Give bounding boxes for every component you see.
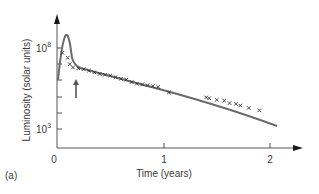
observation-x-marker xyxy=(215,98,219,102)
x-tick-0: 0 xyxy=(51,154,57,165)
y-axis xyxy=(54,14,62,148)
observation-x-marker xyxy=(68,62,72,66)
observation-markers xyxy=(61,51,262,112)
chart: 0 1 2 108 103 Luminosity (solar units) T… xyxy=(0,0,319,194)
x-tick-1: 1 xyxy=(161,154,167,165)
x-axis-label: Time (years) xyxy=(136,168,192,179)
observation-x-marker xyxy=(204,96,208,100)
observation-x-marker xyxy=(71,66,75,70)
observation-x-marker xyxy=(247,106,251,110)
y-axis-label: Luminosity (solar units) xyxy=(21,39,32,142)
observation-x-marker xyxy=(66,56,70,60)
observation-x-marker xyxy=(234,102,238,106)
panel-label: (a) xyxy=(5,170,17,181)
y-tick-label-1e8: 108 xyxy=(36,41,51,54)
x-axis xyxy=(57,143,303,151)
x-axis-arrow-icon xyxy=(293,145,303,151)
observation-x-marker xyxy=(238,104,242,108)
observation-x-marker xyxy=(258,109,262,113)
observation-x-marker xyxy=(222,99,226,103)
observation-x-marker xyxy=(207,96,211,100)
arrow-up-icon xyxy=(73,79,79,85)
model-curve xyxy=(58,35,277,126)
x-tick-2: 2 xyxy=(267,154,273,165)
y-axis-arrow-icon xyxy=(54,14,60,24)
observation-x-marker xyxy=(228,101,232,105)
y-tick-label-1e3: 103 xyxy=(36,122,51,135)
